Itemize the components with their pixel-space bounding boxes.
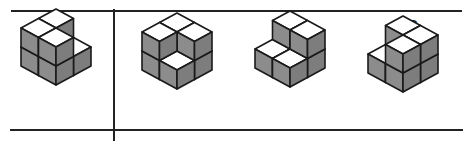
option-c-figure[interactable] xyxy=(0,0,474,145)
